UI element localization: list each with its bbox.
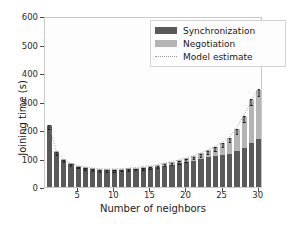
x-tick-mark [258, 188, 259, 192]
model-estimate-polyline [49, 91, 256, 169]
legend-swatch-model-estimate [155, 53, 177, 60]
x-tick-mark [149, 188, 150, 192]
legend-item-synchronization: Synchronization [155, 24, 281, 37]
legend: Synchronization Negotiation Model estima… [150, 20, 286, 67]
x-tick-label: 15 [134, 190, 164, 200]
x-axis-label: Number of neighbors [44, 203, 262, 214]
legend-swatch-synchronization [155, 27, 177, 34]
legend-label-negotiation: Negotiation [183, 39, 235, 49]
x-tick-label: 20 [170, 190, 200, 200]
y-tick-mark [40, 188, 44, 189]
y-tick-label: 300 [12, 98, 38, 108]
legend-item-model-estimate: Model estimate [155, 50, 281, 63]
x-tick-label: 5 [62, 190, 92, 200]
x-tick-mark [222, 188, 223, 192]
x-tick-mark [77, 188, 78, 192]
y-tick-label: 500 [12, 41, 38, 51]
legend-label-model-estimate: Model estimate [183, 52, 253, 62]
figure: Joining time (s) 01002003004005006005101… [0, 0, 295, 235]
y-tick-label: 0 [12, 183, 38, 193]
x-tick-mark [185, 188, 186, 192]
y-tick-label: 600 [12, 12, 38, 22]
legend-swatch-negotiation [155, 40, 177, 47]
legend-item-negotiation: Negotiation [155, 37, 281, 50]
x-tick-mark [113, 188, 114, 192]
x-tick-label: 25 [207, 190, 237, 200]
x-tick-label: 30 [243, 190, 273, 200]
legend-label-synchronization: Synchronization [183, 26, 255, 36]
y-axis-label: Joining time (s) [17, 38, 28, 198]
y-tick-label: 200 [12, 126, 38, 136]
x-tick-label: 10 [98, 190, 128, 200]
y-tick-label: 100 [12, 155, 38, 165]
y-tick-label: 400 [12, 69, 38, 79]
